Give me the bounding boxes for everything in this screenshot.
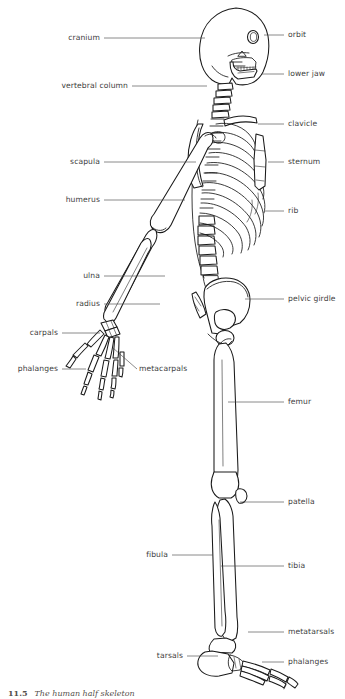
figure-caption: 11.5The human half skeleton <box>8 688 135 698</box>
label-clavicle: clavicle <box>288 120 317 128</box>
label-cranium: cranium <box>68 34 100 42</box>
label-femur: femur <box>288 398 311 406</box>
caption-number: 11.5 <box>8 688 27 698</box>
label-metatarsals: metatarsals <box>288 628 334 636</box>
label-vertebral-column: vertebral column <box>61 82 128 90</box>
skeleton-figure: craniumvertebral columnscapulahumerusuln… <box>0 0 345 699</box>
label-humerus: humerus <box>66 196 100 204</box>
label-phalanges-hand: phalanges <box>18 365 58 373</box>
label-orbit: orbit <box>288 31 306 39</box>
label-pelvic-girdle: pelvic girdle <box>288 295 336 303</box>
label-sternum: sternum <box>288 158 320 166</box>
label-fibula: fibula <box>146 551 168 559</box>
caption-text: The human half skeleton <box>34 689 134 698</box>
label-tibia: tibia <box>288 562 305 570</box>
label-metacarpals: metacarpals <box>139 365 187 373</box>
label-ulna: ulna <box>83 272 100 280</box>
label-carpals: carpals <box>30 329 58 337</box>
label-phalanges-foot: phalanges <box>288 658 328 666</box>
leader-line-metacarpals <box>113 348 137 369</box>
leader-lines-layer <box>0 0 345 699</box>
label-rib: rib <box>288 207 298 215</box>
label-lower-jaw: lower jaw <box>288 70 325 78</box>
label-tarsals: tarsals <box>157 652 183 660</box>
label-patella: patella <box>288 498 315 506</box>
label-scapula: scapula <box>70 158 100 166</box>
label-radius: radius <box>76 300 100 308</box>
